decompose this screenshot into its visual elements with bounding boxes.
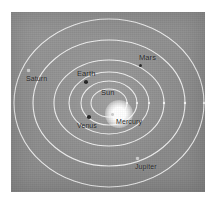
- solar-system-figure: Sun Mercury Venus Earth Mars Jupiter Sat…: [0, 0, 216, 203]
- label-jupiter: Jupiter: [135, 163, 157, 171]
- label-venus: Venus: [77, 122, 97, 130]
- planet-marker-jupiter: [136, 157, 139, 160]
- label-mars: Mars: [139, 54, 156, 62]
- label-sun: Sun: [101, 89, 115, 97]
- label-mercury: Mercury: [116, 118, 142, 126]
- planet-marker-venus: [87, 115, 92, 119]
- label-earth: Earth: [77, 70, 95, 78]
- diagram-plate: Sun Mercury Venus Earth Mars Jupiter Sat…: [11, 12, 205, 192]
- planet-marker-mars: [139, 64, 143, 68]
- orbit-node-dots: [126, 102, 205, 104]
- planet-marker-saturn: [27, 69, 30, 72]
- planet-marker-earth: [84, 80, 89, 84]
- orbit-rings-group: [11, 12, 205, 192]
- label-saturn: Saturn: [26, 75, 47, 83]
- planet-marker-mercury: [111, 113, 113, 115]
